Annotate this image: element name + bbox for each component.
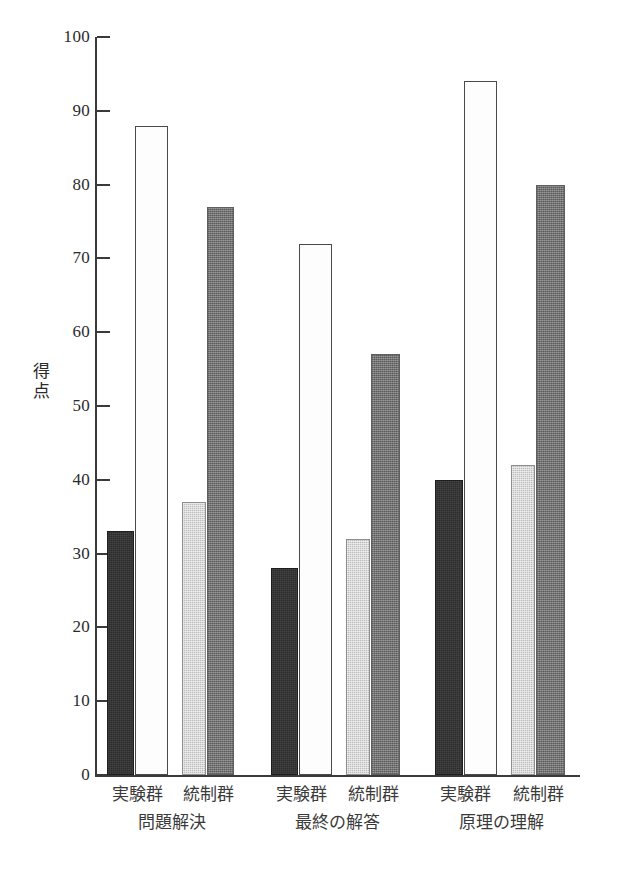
x-group-label-2: 原理の理解	[441, 812, 561, 834]
bar-原理の理解-実験群-white	[464, 81, 497, 775]
y-tick-label-50: 50	[56, 397, 90, 414]
bar-最終の解答-統制群-darkgray	[371, 354, 400, 775]
y-tick-label-0: 0	[56, 766, 90, 783]
y-tick-label-30: 30	[56, 545, 90, 562]
bar-最終の解答-実験群-white	[299, 244, 332, 775]
y-axis-title-char-1: 得	[30, 362, 52, 382]
bar-問題解決-実験群-black	[107, 531, 134, 775]
y-tick-label-wrap: 30	[52, 545, 90, 562]
y-axis-title-char-2: 点	[30, 382, 52, 402]
y-axis-title: 得 点	[30, 362, 52, 402]
y-tick-label-wrap: 90	[52, 102, 90, 119]
bar-原理の理解-統制群-lightgray	[511, 465, 535, 775]
bar-最終の解答-統制群-lightgray	[346, 539, 370, 775]
y-tick-90	[97, 110, 110, 112]
bar-問題解決-統制群-lightgray	[182, 502, 206, 775]
x-category-label-4: 実験群	[425, 784, 505, 806]
x-category-label-1: 統制群	[168, 784, 248, 806]
y-tick-70	[97, 257, 110, 259]
bar-問題解決-統制群-darkgray	[207, 207, 234, 775]
x-axis-line	[95, 775, 580, 777]
y-tick-label-70: 70	[56, 249, 90, 266]
bar-最終の解答-実験群-black	[271, 568, 298, 775]
y-tick-label-10: 10	[56, 692, 90, 709]
y-tick-label-wrap: 10	[52, 692, 90, 709]
bar-chart: 得 点 0102030405060708090100 実験群統制群実験群統制群実…	[0, 0, 619, 876]
y-tick-50	[97, 405, 110, 407]
y-tick-label-wrap: 70	[52, 249, 90, 266]
y-tick-label-40: 40	[56, 471, 90, 488]
bar-原理の理解-実験群-black	[435, 480, 463, 775]
bar-問題解決-実験群-white	[135, 126, 168, 775]
y-tick-label-80: 80	[56, 176, 90, 193]
y-tick-label-wrap: 50	[52, 397, 90, 414]
x-category-label-3: 統制群	[333, 784, 413, 806]
x-category-label-2: 実験群	[261, 784, 341, 806]
y-tick-label-wrap: 40	[52, 471, 90, 488]
y-tick-label-60: 60	[56, 323, 90, 340]
y-tick-label-wrap: 20	[52, 618, 90, 635]
y-tick-label-wrap: 0	[52, 766, 90, 783]
x-group-label-1: 最終の解答	[277, 812, 397, 834]
bar-原理の理解-統制群-darkgray	[536, 185, 565, 775]
x-category-label-5: 統制群	[498, 784, 578, 806]
y-tick-label-wrap: 60	[52, 323, 90, 340]
y-tick-40	[97, 479, 110, 481]
bottom-cut-caption	[4, 858, 615, 876]
y-tick-label-20: 20	[56, 618, 90, 635]
y-tick-label-90: 90	[56, 102, 90, 119]
y-tick-label-100: 100	[56, 28, 90, 45]
y-tick-label-wrap: 80	[52, 176, 90, 193]
y-tick-60	[97, 331, 110, 333]
y-tick-100	[97, 36, 110, 38]
x-category-label-0: 実験群	[97, 784, 177, 806]
y-tick-80	[97, 184, 110, 186]
y-tick-label-wrap: 100	[52, 28, 90, 45]
x-group-label-0: 問題解決	[112, 812, 232, 834]
